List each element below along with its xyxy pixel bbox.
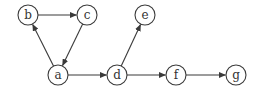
node-label: a <box>54 68 61 82</box>
node-g: g <box>226 65 246 85</box>
node-f: f <box>166 65 186 85</box>
nodes-layer: abcdefg <box>18 5 246 85</box>
edge-d-to-e <box>121 25 140 66</box>
node-label: b <box>24 8 32 22</box>
node-label: g <box>232 68 240 82</box>
node-d: d <box>107 65 127 85</box>
directed-graph-diagram: abcdefg <box>0 0 259 91</box>
edge-a-to-b <box>33 24 54 66</box>
node-a: a <box>48 65 68 85</box>
node-label: c <box>84 8 91 22</box>
node-b: b <box>18 5 38 25</box>
node-label: d <box>113 68 121 82</box>
node-e: e <box>135 5 155 25</box>
node-c: c <box>77 5 97 25</box>
edge-c-to-a <box>63 24 83 66</box>
node-label: e <box>141 8 148 22</box>
